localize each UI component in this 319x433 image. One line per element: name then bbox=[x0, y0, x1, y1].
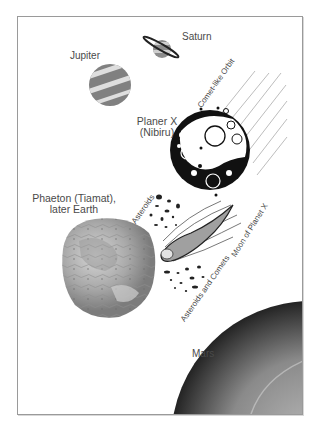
phaeton-earth-icon bbox=[62, 218, 155, 318]
mars-label: Mars bbox=[192, 348, 214, 359]
diagram-frame: Saturn Jupiter Comet-like Orbit Planer X… bbox=[17, 16, 303, 415]
jupiter-label: Jupiter bbox=[70, 50, 100, 61]
planet-x-label: Planer X (Nibiru) bbox=[130, 116, 184, 138]
planet-x-label-line2: (Nibiru) bbox=[130, 127, 184, 138]
phaeton-label-line2: later Earth bbox=[24, 204, 124, 215]
jupiter-planet-icon bbox=[81, 59, 143, 107]
phaeton-label: Phaeton (Tiamat), later Earth bbox=[24, 193, 124, 215]
saturn-label: Saturn bbox=[182, 31, 211, 42]
saturn-planet-icon bbox=[142, 34, 180, 59]
